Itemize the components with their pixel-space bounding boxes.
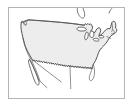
lake-erie-path	[93, 38, 99, 41]
baja-california-path	[29, 59, 40, 85]
canada-outline-path	[77, 8, 84, 18]
rio-grande-path	[70, 66, 71, 89]
lake-huron-path	[90, 31, 94, 38]
map-alt-text: Outline map of the contiguous United Sta…	[0, 0, 1, 1]
mexico-west-coast-path	[40, 81, 47, 88]
us-outline-map	[9, 8, 124, 98]
conus-landmass-path	[21, 20, 117, 69]
atlantic-canada-outline-path	[109, 8, 112, 13]
lake-ontario-path	[99, 35, 104, 38]
map-thumbnail: United States Outline Map Outline map of…	[0, 0, 133, 107]
map-title: United States Outline Map	[0, 0, 1, 1]
map-region-label: Contiguous United States	[0, 0, 1, 1]
lake-superior-path	[77, 27, 86, 31]
map-border-frame	[8, 7, 125, 99]
